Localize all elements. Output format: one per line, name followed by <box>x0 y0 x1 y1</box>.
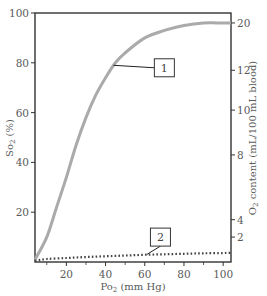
callouts: 12 <box>113 59 174 255</box>
x-tick-label: 40 <box>99 268 112 280</box>
y-axis-label: So2 (%) <box>4 119 17 157</box>
oxygen-dissociation-chart: 20406080100 20406080100 201210842 12 Po2… <box>0 0 267 296</box>
x-tick-label: 60 <box>138 268 151 280</box>
x-axis-label: Po2 (mm Hg) <box>100 281 165 294</box>
callout-2-leader <box>147 246 161 254</box>
y-tick-label: 60 <box>16 107 29 119</box>
x-axis-ticks: 20406080100 <box>47 262 233 280</box>
y2-tick-label: 4 <box>237 214 244 226</box>
x-tick-label: 20 <box>60 268 73 280</box>
y2-tick-label: 8 <box>237 149 244 161</box>
y-tick-label: 20 <box>16 206 29 218</box>
series-1-line <box>35 23 231 260</box>
callout-1-label: 1 <box>161 62 168 75</box>
y-tick-label: 40 <box>16 156 29 168</box>
y2-tick-label: 2 <box>237 231 244 243</box>
plot-frame <box>35 13 231 262</box>
series-2-line <box>35 253 231 261</box>
x-tick-label: 100 <box>213 268 233 280</box>
callout-1-leader <box>113 65 154 67</box>
y2-tick-label: 20 <box>237 17 250 29</box>
data-series <box>35 23 231 261</box>
plot-border <box>35 13 231 262</box>
y-tick-label: 80 <box>16 57 29 69</box>
y-axis-ticks: 20406080100 <box>9 7 35 218</box>
y2-axis-label: O2 content (mL/100 mL blood) <box>247 61 260 215</box>
callout-2-label: 2 <box>157 231 164 244</box>
x-tick-label: 80 <box>177 268 190 280</box>
y-tick-label: 100 <box>9 7 29 19</box>
